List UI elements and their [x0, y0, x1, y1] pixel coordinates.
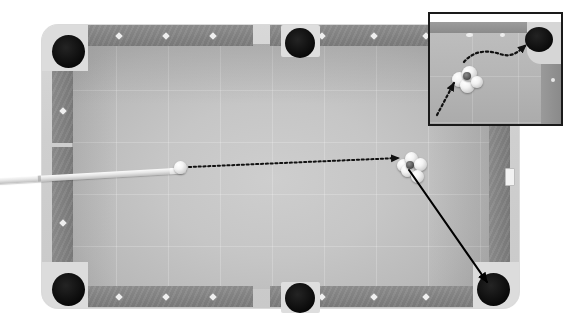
- cushion-bottom-left: [72, 286, 253, 307]
- cue-ferrule: [38, 176, 41, 182]
- rail-diamond-icon: [370, 32, 377, 39]
- inset-trajectory-incoming: [437, 83, 454, 115]
- rail-diamond-icon: [59, 219, 66, 226]
- rail-diamond-icon: [209, 32, 216, 39]
- pool-table-diagram: Pool Table Shot Diagram Overhead view of…: [0, 0, 587, 330]
- diagram-description: Overhead view of a billiards table with …: [0, 16, 1, 17]
- rail-diamond-icon: [59, 107, 66, 114]
- pocket-top-left[interactable]: [52, 35, 85, 68]
- rail-diamond-icon: [370, 293, 377, 300]
- inset-trajectory-overlay: [430, 14, 561, 124]
- pocket-bottom-left[interactable]: [52, 273, 85, 306]
- rail-diamond-icon: [162, 32, 169, 39]
- pocket-bottom-middle[interactable]: [285, 283, 315, 313]
- cue-ball[interactable]: [174, 161, 187, 174]
- inset-trajectory-to-pocket: [464, 45, 526, 62]
- diagram-title: Pool Table Shot Diagram: [0, 21, 1, 22]
- rail-diamond-icon: [422, 293, 429, 300]
- object-ball-dark[interactable]: [406, 161, 414, 169]
- right-rail-sight-marker: [505, 168, 515, 186]
- pocket-top-middle[interactable]: [285, 28, 315, 58]
- felt-shadow-left: [72, 44, 118, 289]
- rail-diamond-icon: [115, 32, 122, 39]
- rail-diamond-icon: [162, 293, 169, 300]
- inset-magnified-view: [428, 12, 563, 126]
- rail-diamond-icon: [115, 293, 122, 300]
- rail-diamond-icon: [209, 293, 216, 300]
- cushion-top-left: [72, 25, 253, 46]
- pocket-bottom-right[interactable]: [477, 273, 510, 306]
- object-ball[interactable]: [411, 170, 424, 183]
